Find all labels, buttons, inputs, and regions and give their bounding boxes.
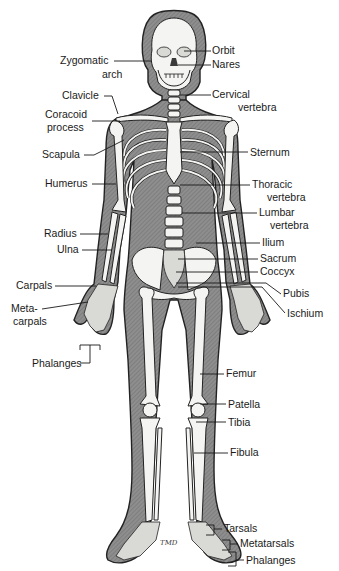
svg-text:Coracoid: Coracoid [45,108,87,120]
patella-right [191,403,205,417]
svg-text:Cervical: Cervical [212,88,250,100]
svg-text:Zygomatic: Zygomatic [60,54,108,66]
svg-text:Pubis: Pubis [283,287,309,299]
svg-text:Scapula: Scapula [42,148,80,160]
svg-text:vertebra: vertebra [267,191,306,203]
svg-text:Carpals: Carpals [16,279,52,291]
svg-text:Meta-: Meta- [11,302,38,314]
label-radius: Radius [44,227,108,239]
svg-text:Tibia: Tibia [228,416,251,428]
svg-text:Patella: Patella [228,398,260,410]
svg-text:Tarsals: Tarsals [224,522,257,534]
svg-text:Thoracic: Thoracic [252,178,292,190]
svg-text:Sacrum: Sacrum [260,252,296,264]
svg-text:Orbit: Orbit [212,44,235,56]
svg-text:Ilium: Ilium [262,236,284,248]
artist-signature: TMD [160,539,178,547]
sternum [166,122,182,184]
svg-text:Femur: Femur [226,367,257,379]
skull [151,18,197,90]
svg-text:Ulna: Ulna [57,243,79,255]
svg-text:vertebra: vertebra [238,101,277,113]
svg-text:Nares: Nares [212,58,240,70]
label-phalanges-hand: Phalanges [32,345,100,369]
svg-text:Phalanges: Phalanges [246,554,296,566]
svg-text:carpals: carpals [13,315,47,327]
svg-text:Ischium: Ischium [287,307,323,319]
svg-text:Humerus: Humerus [45,177,88,189]
orbit-left [157,47,171,57]
orbit-right [177,47,191,57]
patella-left [143,403,157,417]
svg-text:vertebra: vertebra [270,219,309,231]
label-carpals: Carpals [16,279,96,291]
svg-text:Clavicle: Clavicle [62,89,99,101]
svg-text:Fibula: Fibula [230,446,259,458]
svg-text:process: process [47,121,84,133]
label-zygomatic-arch: Zygomatic arch [60,54,152,80]
svg-text:Sternum: Sternum [250,146,290,158]
svg-text:Metatarsals: Metatarsals [240,537,294,549]
skeleton-diagram: TMD Zygomatic arch Clavicle Coracoid pro… [0,0,339,571]
svg-text:Radius: Radius [44,227,77,239]
svg-text:Lumbar: Lumbar [259,206,295,218]
svg-text:Phalanges: Phalanges [32,357,82,369]
svg-text:Coccyx: Coccyx [260,265,295,277]
svg-text:arch: arch [102,68,123,80]
